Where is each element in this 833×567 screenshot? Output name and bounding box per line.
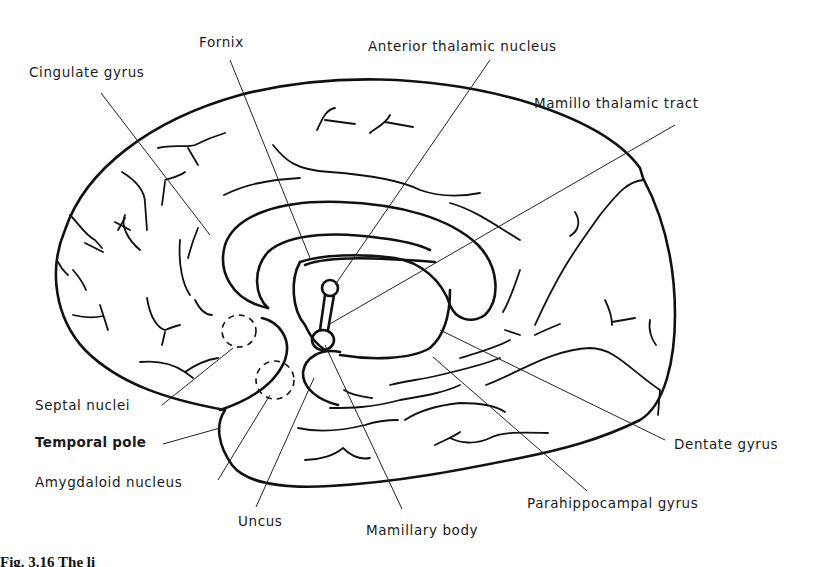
label-fornix: Fornix [199, 36, 244, 50]
leader-anterior-thalamic-nucleus [335, 60, 490, 285]
leader-mamillo-thalamic-tract [328, 125, 675, 325]
dentate-arc [340, 290, 450, 358]
figure-caption: Fig. 3.16 The li [0, 554, 95, 567]
leader-temporal-pole [163, 428, 220, 444]
label-uncus: Uncus [238, 515, 282, 529]
anterior-thalamic-nucleus-shape [322, 280, 338, 296]
label-cingulate-gyrus: Cingulate gyrus [29, 66, 144, 80]
limbic-system-diagram: Fornix Anterior thalamic nucleus Cingula… [0, 0, 833, 567]
label-mamillo-thalamic-tract: Mamillo thalamic tract [534, 97, 699, 111]
label-septal-nuclei: Septal nuclei [35, 399, 130, 413]
leader-fornix [230, 60, 310, 258]
temporal-notch [220, 318, 287, 410]
leader-septal-nuclei [162, 348, 233, 405]
label-amygdaloid-nucleus: Amygdaloid nucleus [35, 476, 182, 490]
leader-dentate-gyrus [440, 330, 665, 440]
label-anterior-thalamic-nucleus: Anterior thalamic nucleus [368, 40, 557, 54]
label-temporal-pole: Temporal pole [35, 436, 146, 450]
septal-nuclei-shape [222, 315, 256, 347]
uncus-shape [303, 351, 340, 405]
calcarine-sulcus [486, 348, 660, 415]
mamillothalamic-tract-shape [320, 295, 334, 330]
corpus-callosum-arc [257, 235, 430, 308]
label-dentate-gyrus: Dentate gyrus [674, 438, 778, 452]
sulci [58, 108, 656, 460]
fornix-loop [294, 262, 325, 350]
label-parahippocampal-gyrus: Parahippocampal gyrus [527, 497, 698, 511]
leader-cingulate-gyrus [101, 93, 210, 235]
label-mamillary-body: Mamillary body [366, 524, 478, 538]
parieto-occipital-sulcus [535, 180, 643, 325]
amygdaloid-nucleus-shape [256, 361, 294, 399]
